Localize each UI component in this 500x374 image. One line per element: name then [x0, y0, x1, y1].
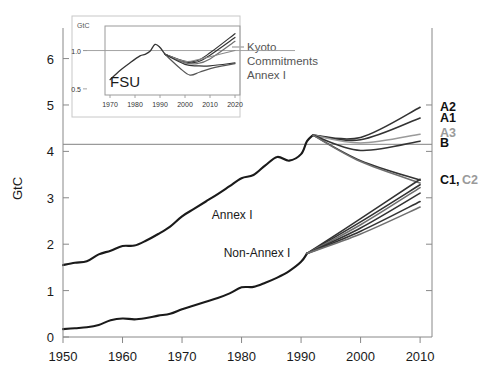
x-tick-label: 1990	[287, 349, 316, 364]
inset-y-axis-title: GtC	[77, 22, 89, 29]
label-layer: Annex INon-Annex IKyotoCommitmentsAnnex …	[212, 41, 478, 260]
scenario-label-c2: C2	[462, 173, 478, 187]
inset-series-fsu-a2	[165, 34, 235, 62]
y-axis-title: GtC	[10, 177, 25, 200]
x-tick-label: 1980	[227, 349, 256, 364]
inset-x-tick-label: 1970	[102, 101, 118, 108]
chart-canvas: 01234561950196019701980199020002010GtC A…	[0, 0, 500, 374]
inset-x-tick-label: 1980	[127, 101, 143, 108]
x-tick-label: 2000	[346, 349, 375, 364]
x-tick-label: 2010	[406, 349, 435, 364]
y-tick-label: 2	[47, 237, 54, 252]
inset-x-tick-label: 2020	[227, 101, 243, 108]
y-tick-label: 3	[47, 191, 54, 206]
inset-y-tick-label: 1.0	[71, 48, 81, 55]
series-a2-annex-i	[313, 107, 420, 139]
x-tick-label: 1960	[108, 349, 137, 364]
series-a2-non-annex-i	[307, 179, 420, 253]
non-annex1-label: Non-Annex I	[224, 246, 291, 260]
kyoto-annotation-line: Annex I	[247, 69, 286, 81]
kyoto-annotation-line: Kyoto	[247, 41, 276, 53]
inset-y-tick-label: 0.5	[71, 86, 81, 93]
series-non-annex-i-historical	[63, 253, 307, 329]
inset-x-tick-label: 2000	[177, 101, 193, 108]
inset-x-tick-label: 2010	[202, 101, 218, 108]
scenario-label-a1: A1	[440, 111, 456, 125]
x-tick-label: 1970	[168, 349, 197, 364]
x-tick-label: 1950	[49, 349, 78, 364]
scenario-label-b: B	[440, 136, 449, 150]
y-tick-label: 0	[47, 330, 54, 345]
y-tick-label: 1	[47, 284, 54, 299]
scenario-label-c1: C1,	[440, 173, 459, 187]
y-tick-label: 5	[47, 98, 54, 113]
annex1-label: Annex I	[212, 208, 253, 222]
emissions-chart-figure: 01234561950196019701980199020002010GtC A…	[0, 0, 500, 374]
y-tick-label: 4	[47, 144, 54, 159]
inset-x-tick-label: 1990	[152, 101, 168, 108]
series-a1-non-annex-i	[307, 185, 420, 254]
kyoto-annotation-line: Commitments	[247, 55, 318, 67]
inset-region-label: FSU	[110, 73, 140, 90]
y-tick-label: 6	[47, 52, 54, 67]
axis-layer: 01234561950196019701980199020002010GtC	[10, 28, 435, 364]
